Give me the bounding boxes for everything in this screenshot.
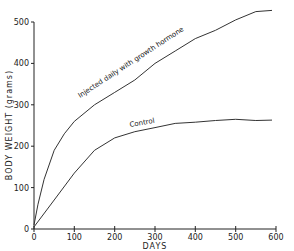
growth-hormone-annotation: Injected daily with growth hormone xyxy=(77,25,186,99)
y-tick-100: 100 xyxy=(14,184,29,193)
x-tick-600: 600 xyxy=(268,233,283,242)
y-axis-title: BODY WEIGHT (grams) xyxy=(5,70,14,180)
control-annotation: Control xyxy=(129,117,155,129)
y-tick-300: 300 xyxy=(14,101,29,110)
x-tick-100: 100 xyxy=(67,233,82,242)
x-tick-500: 500 xyxy=(228,233,243,242)
y-tick-0: 0 xyxy=(24,225,29,234)
y-tick-500: 500 xyxy=(14,18,29,27)
x-ticks: 0 100 200 300 400 500 600 xyxy=(31,226,283,242)
x-tick-0: 0 xyxy=(31,233,36,242)
y-ticks: 0 100 200 300 400 500 xyxy=(14,18,34,234)
x-tick-200: 200 xyxy=(107,233,122,242)
x-axis-title: DAYS xyxy=(143,242,168,251)
growth-chart: 0 100 200 300 400 500 0 100 200 300 400 … xyxy=(0,0,294,251)
x-tick-300: 300 xyxy=(147,233,162,242)
control-line xyxy=(34,119,272,227)
x-tick-400: 400 xyxy=(188,233,203,242)
y-tick-400: 400 xyxy=(14,59,29,68)
y-tick-200: 200 xyxy=(14,142,29,151)
